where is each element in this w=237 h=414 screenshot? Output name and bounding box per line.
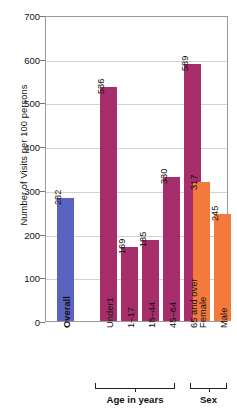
bar-45-64[interactable]: [163, 177, 180, 321]
y-tick-600: 600: [10, 54, 40, 65]
bracket-nub-sex: [209, 388, 210, 392]
y-tick-300: 300: [10, 185, 40, 196]
category-label-under1: Under1: [105, 297, 115, 328]
y-tick-mark-0: [40, 322, 45, 323]
category-label-18-44: 18–44: [147, 302, 157, 328]
group-label-sex: Sex: [190, 394, 227, 405]
group-bracket-sex: [190, 383, 227, 389]
group-label-age: Age in years: [95, 394, 175, 405]
bar-chart: Number of Visits per 100 persons 700 600…: [0, 0, 237, 414]
y-tick-500: 500: [10, 98, 40, 109]
value-label-female: 317: [189, 175, 199, 190]
value-label-under1: 536: [96, 79, 106, 94]
category-label-1-17: 1–17: [126, 307, 136, 328]
value-label-male: 245: [210, 206, 220, 221]
y-tick-200: 200: [10, 229, 40, 240]
value-label-45-64: 330: [159, 169, 169, 184]
category-label-male: Male: [219, 308, 229, 328]
category-label-45-64: 45–64: [168, 302, 178, 328]
y-tick-100: 100: [10, 273, 40, 284]
y-tick-0: 0: [10, 317, 40, 328]
bar-under1[interactable]: [100, 87, 117, 321]
value-label-65-and-over: 589: [180, 56, 190, 71]
value-label-18-44: 185: [138, 232, 148, 247]
plot-area: [45, 16, 228, 322]
gridline-600: [46, 61, 227, 62]
y-axis-tick-labels: 700 600 500 400 300 200 100 0: [8, 16, 40, 322]
category-label-female: Female: [198, 297, 208, 328]
category-label-overall: Overall: [62, 296, 72, 328]
bar-male[interactable]: [214, 214, 231, 321]
value-label-1-17: 169: [117, 239, 127, 254]
y-tick-400: 400: [10, 142, 40, 153]
value-label-overall: 282: [53, 190, 63, 205]
y-tick-700: 700: [10, 11, 40, 22]
bracket-nub-age: [135, 388, 136, 392]
group-bracket-age: [95, 383, 175, 389]
